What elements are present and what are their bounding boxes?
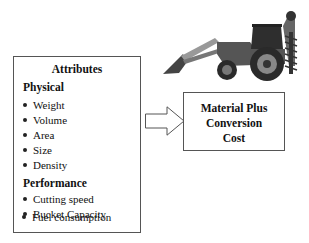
section-heading-performance: Performance (23, 177, 87, 189)
attributes-title: Attributes (14, 63, 140, 75)
bullet-icon (23, 103, 27, 107)
bullet-icon (23, 118, 27, 122)
list-item: Size (23, 144, 52, 156)
backhoe-tractor-icon (155, 4, 305, 84)
list-item: Fuel consumption (22, 211, 111, 223)
right-arrow-icon (145, 106, 185, 136)
bullet-icon (23, 133, 27, 137)
section-heading-physical: Physical (23, 81, 64, 93)
bullet-icon (22, 215, 26, 219)
attributes-box: Attributes Physical Weight Volume Area S… (13, 56, 141, 233)
list-item: Weight (23, 99, 65, 111)
bullet-icon (23, 197, 27, 201)
cost-label: Material Plus Conversion Cost (184, 101, 284, 146)
bullet-icon (23, 163, 27, 167)
cost-box: Material Plus Conversion Cost (183, 92, 285, 151)
list-item: Density (23, 159, 67, 171)
list-item: Volume (23, 114, 67, 126)
list-item: Area (23, 129, 54, 141)
bullet-icon (23, 148, 27, 152)
list-item: Cutting speed (23, 193, 94, 205)
